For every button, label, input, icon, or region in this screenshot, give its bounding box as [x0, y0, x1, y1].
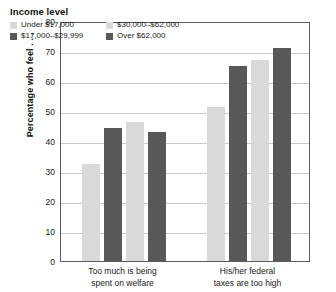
legend-swatch-icon	[106, 33, 113, 40]
plot-area	[60, 22, 310, 262]
legend-swatch-icon	[10, 22, 17, 29]
y-axis-tick-label: 20	[29, 198, 55, 207]
category-label-line: taxes are too high	[188, 278, 308, 290]
category-label-line: His/her federal	[188, 266, 308, 278]
legend-item: Over $62,000	[106, 32, 202, 40]
bar	[273, 48, 291, 261]
x-axis-category-label: His/her federaltaxes are too high	[188, 266, 308, 289]
legend-row: Under $17,000$30,000–$62,000	[10, 21, 202, 29]
legend-item: Under $17,000	[10, 21, 106, 29]
y-axis-tick-label: 10	[29, 228, 55, 237]
legend-row: $17,000–$29,999Over $62,000	[10, 32, 202, 40]
bar-chart-figure: Percentage who feel . . . 01020304050607…	[0, 0, 336, 292]
bar	[104, 128, 122, 262]
legend-label: Under $17,000	[21, 21, 74, 29]
bar	[229, 66, 247, 261]
bar	[251, 60, 269, 261]
bar	[126, 122, 144, 262]
bar	[148, 132, 166, 261]
legend-item: $17,000–$29,999	[10, 32, 106, 40]
bar	[82, 164, 100, 262]
y-axis-tick-label: 70	[29, 48, 55, 57]
category-label-line: Too much is being	[63, 266, 183, 278]
legend-title: Income level	[10, 6, 202, 17]
legend-label: $30,000–$62,000	[117, 21, 179, 29]
y-axis-tick-label: 60	[29, 78, 55, 87]
y-axis-tick-label: 50	[29, 108, 55, 117]
x-axis-category-label: Too much is beingspent on welfare	[63, 266, 183, 289]
y-axis-tick-label: 0	[29, 258, 55, 267]
y-axis-tick-label: 30	[29, 168, 55, 177]
legend-entries: Under $17,000$30,000–$62,000$17,000–$29,…	[10, 21, 202, 40]
legend-swatch-icon	[10, 33, 17, 40]
legend-label: $17,000–$29,999	[21, 32, 83, 40]
legend-label: Over $62,000	[117, 32, 165, 40]
y-axis-tick-label: 40	[29, 138, 55, 147]
category-label-line: spent on welfare	[63, 278, 183, 290]
legend-swatch-icon	[106, 22, 113, 29]
legend-item: $30,000–$62,000	[106, 21, 202, 29]
bar	[207, 107, 225, 262]
legend: Income level Under $17,000$30,000–$62,00…	[10, 6, 202, 43]
